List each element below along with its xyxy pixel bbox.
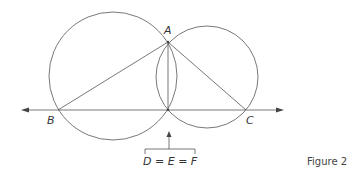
left-arrowhead-icon [21,108,29,113]
equation-label: D = E = F [143,155,197,168]
figure-caption: Figure 2 [307,156,347,167]
right-circle [156,26,258,128]
point-d [167,109,169,111]
segment-ac [168,42,246,110]
segment-ab [58,42,168,110]
figure-drawing [0,0,354,181]
label-c: C [246,114,254,127]
up-arrowhead-icon [167,131,172,137]
brace [145,146,195,154]
point-a [167,41,169,43]
label-a: A [164,24,172,37]
right-arrowhead-icon [276,108,284,113]
label-b: B [47,114,55,127]
geometry-figure: A B C D = E = F Figure 2 [0,0,354,181]
